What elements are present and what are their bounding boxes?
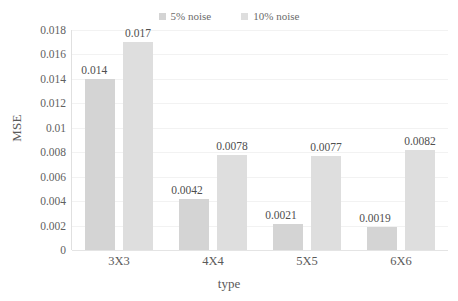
legend-swatch-icon <box>159 13 166 20</box>
bar[interactable] <box>405 150 435 250</box>
x-axis-baseline <box>72 250 448 251</box>
x-axis-tick-label: 3X3 <box>72 254 166 269</box>
y-axis-tick-label: 0.008 <box>6 146 66 158</box>
bar[interactable] <box>123 42 153 250</box>
bar-wrapper: 0.017 <box>123 30 153 250</box>
y-axis-tick-label: 0.012 <box>6 97 66 109</box>
bar[interactable] <box>179 199 209 250</box>
x-axis-tick-label: 6X6 <box>354 254 448 269</box>
bar-value-label: 0.0042 <box>171 184 203 196</box>
bars: 0.0140.017 <box>72 30 166 250</box>
bar-wrapper: 0.0019 <box>367 30 397 250</box>
y-axis-tick-label: 0.004 <box>6 195 66 207</box>
bars: 0.00190.0082 <box>354 30 448 250</box>
bar-value-label: 0.0077 <box>310 141 342 153</box>
bar-value-label: 0.0021 <box>265 209 297 221</box>
bar-value-label: 0.017 <box>125 27 151 39</box>
y-axis-tick-label: 0.006 <box>6 171 66 183</box>
bar-value-label: 0.0082 <box>404 135 436 147</box>
bar[interactable] <box>217 155 247 250</box>
bar-wrapper: 0.0042 <box>179 30 209 250</box>
bars: 0.00420.0078 <box>166 30 260 250</box>
bar-wrapper: 0.014 <box>85 30 115 250</box>
y-axis-tick-label: 0.016 <box>6 48 66 60</box>
x-axis-tick-label: 5X5 <box>260 254 354 269</box>
bar-group: 0.0140.0173X3 <box>72 30 166 250</box>
legend-item-2[interactable]: 10% noise <box>241 11 299 22</box>
bar-value-label: 0.014 <box>81 64 107 76</box>
x-axis-title: type <box>0 276 458 292</box>
y-axis-tick-label: 0.002 <box>6 220 66 232</box>
bar[interactable] <box>85 79 115 250</box>
bar[interactable] <box>273 224 303 250</box>
bar-value-label: 0.0078 <box>216 140 248 152</box>
bar-wrapper: 0.0021 <box>273 30 303 250</box>
legend-label: 10% noise <box>253 11 299 22</box>
bar[interactable] <box>367 227 397 250</box>
legend-swatch-icon <box>241 13 248 20</box>
bars: 0.00210.0077 <box>260 30 354 250</box>
bar[interactable] <box>311 156 341 250</box>
x-axis-tick-label: 4X4 <box>166 254 260 269</box>
chart-legend: 5% noise10% noise <box>0 11 458 22</box>
bar-groups: 0.0140.0173X30.00420.00784X40.00210.0077… <box>72 30 448 250</box>
y-axis-tick-label: 0.018 <box>6 24 66 36</box>
y-axis-tick-label: 0.014 <box>6 73 66 85</box>
legend-label: 5% noise <box>171 11 212 22</box>
bar-value-label: 0.0019 <box>359 212 391 224</box>
y-axis-tick-label: 0.01 <box>6 122 66 134</box>
bar-chart: 5% noise10% noise MSE type 00.0020.0040.… <box>0 0 458 301</box>
bar-group: 0.00190.00826X6 <box>354 30 448 250</box>
legend-item-1[interactable]: 5% noise <box>159 11 212 22</box>
bar-wrapper: 0.0078 <box>217 30 247 250</box>
bar-wrapper: 0.0082 <box>405 30 435 250</box>
y-axis-tick-label: 0 <box>6 244 66 256</box>
bar-wrapper: 0.0077 <box>311 30 341 250</box>
bar-group: 0.00420.00784X4 <box>166 30 260 250</box>
bar-group: 0.00210.00775X5 <box>260 30 354 250</box>
plot-area: 00.0020.0040.0060.0080.010.0120.0140.016… <box>72 30 448 250</box>
